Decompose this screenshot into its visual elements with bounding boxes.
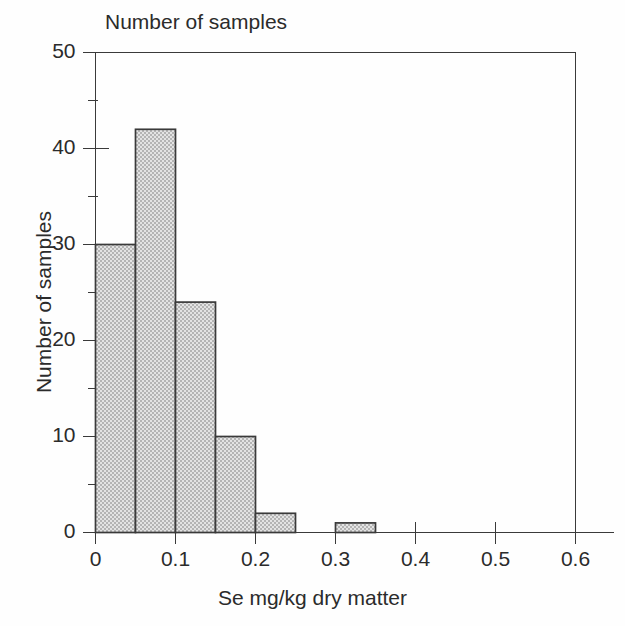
plot-area	[0, 0, 625, 626]
y-tick-label: 0	[64, 519, 76, 543]
histogram-bar	[96, 245, 136, 533]
y-tick-label: 30	[52, 231, 75, 255]
x-tick-label: 0.6	[536, 547, 616, 571]
x-tick-label: 0.2	[216, 547, 296, 571]
histogram-bar	[216, 437, 256, 533]
y-tick-label: 40	[52, 135, 75, 159]
x-tick-label: 0.5	[456, 547, 536, 571]
y-tick-label: 10	[52, 423, 75, 447]
x-tick-label: 0.1	[136, 547, 216, 571]
histogram-bar	[336, 523, 376, 533]
x-tick-label: 0.4	[376, 547, 456, 571]
histogram-bar	[136, 129, 176, 532]
histogram-bar	[176, 302, 216, 532]
x-tick-label: 0.3	[296, 547, 376, 571]
y-tick-label: 20	[52, 327, 75, 351]
histogram-bar	[256, 513, 296, 532]
histogram-bars	[96, 129, 614, 532]
y-tick-label: 50	[52, 39, 75, 63]
x-tick-label: 0	[56, 547, 136, 571]
histogram-figure: Number of samples Number of samples Se m…	[0, 0, 625, 626]
